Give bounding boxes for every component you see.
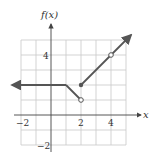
- curve-piece-2-ext: [113, 35, 132, 54]
- y-axis-label: f(x): [40, 9, 58, 20]
- closed-dot-marker: [79, 83, 83, 87]
- x-axis-label: x: [143, 109, 149, 120]
- tick-label-x-2: 2: [78, 118, 84, 128]
- tick-label-x-4: 4: [108, 118, 114, 128]
- tick-label-y-4: 4: [43, 51, 49, 61]
- open-circle-marker: [109, 53, 114, 58]
- function-graph: f(x) x −2 2 4 4 −2: [0, 0, 154, 159]
- open-circle-marker: [79, 98, 84, 103]
- tick-label-y-neg2: −2: [37, 141, 50, 151]
- tick-label-x-neg2: −2: [16, 118, 29, 128]
- curve-piece-2: [81, 57, 110, 86]
- curve-piece-1-slope: [66, 85, 80, 99]
